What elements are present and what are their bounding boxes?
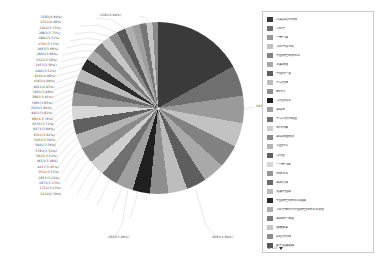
callout-left-31: 1871(3.17%) [39, 182, 60, 185]
legend-swatch-icon [267, 171, 273, 176]
legend-item[interactable]: 合作共赢 [267, 124, 370, 133]
legend-swatch-icon [267, 153, 273, 158]
callout-left-13: 4022(4.03%) [33, 86, 54, 89]
callout-left-27: 4611(3.48%) [37, 160, 58, 163]
callout-left-25: 5782(3.54%) [35, 150, 56, 153]
callout-left-12: 4161(4.09%) [34, 80, 55, 83]
callout-left-18: 6921(3.82%) [31, 112, 52, 115]
callout-left-8: 2522(3.58%) [36, 59, 57, 62]
callout-left-16: 7081(3.85%) [31, 102, 52, 105]
legend-item[interactable]: "一带一路" [267, 160, 370, 169]
legend-item-label: 习近平总书记 [276, 45, 294, 48]
legend-panel[interactable]: 人类命运共同体习近平一带一路习近平总书记中国特色社会主义主要治理中国共产党中华民… [262, 11, 374, 253]
callout-left-6: 2663(3.68%) [37, 48, 58, 51]
legend-item[interactable]: 全面从严治党 [267, 214, 370, 223]
callout-left-29: 3512(3.31%) [38, 171, 59, 174]
legend-item[interactable]: 普遍安全 [267, 223, 370, 232]
legend-item-label: 中国特色社会主义 [276, 54, 300, 57]
legend-item-label: 习近平 [276, 27, 285, 30]
legend-item[interactable]: 习近平总书记 [267, 42, 370, 51]
legend-swatch-icon [267, 189, 273, 194]
legend-swatch-icon [267, 44, 273, 49]
callout-left-4: 2802(3.71%) [38, 37, 59, 40]
callout-left-33: 2214(2.79%) [40, 193, 61, 196]
callout-left-1: 1552(4.48%) [40, 21, 61, 24]
legend-swatch-icon [267, 107, 273, 112]
legend-item[interactable]: 中华民族 [267, 78, 370, 87]
callout-left-17: 7021(3.84%) [31, 107, 52, 110]
legend-swatch-icon [267, 71, 273, 76]
legend-item-label: 中华人民共和国 [276, 117, 297, 120]
legend-item-label: 大国外交 [276, 144, 288, 147]
legend-item[interactable]: 人类命运共同体 [267, 15, 370, 24]
legend-item[interactable]: 全球治理体系 [267, 133, 370, 142]
legend-item[interactable]: 习近平 [267, 24, 370, 33]
callout-left-15: 3801(3.91%) [32, 96, 53, 99]
legend-item[interactable]: 全球化 [267, 105, 370, 114]
callout-left-30: 2811(3.24%) [38, 177, 59, 180]
legend-item-label: 普遍安全 [276, 226, 288, 229]
legend-list[interactable]: 人类命运共同体习近平一带一路习近平总书记中国特色社会主义主要治理中国共产党中华民… [267, 15, 370, 250]
legend-item-label: 合作共赢 [276, 126, 288, 129]
legend-item[interactable]: 发展中国家 [267, 187, 370, 196]
callout-left-28: 4417(3.45%) [37, 166, 58, 169]
legend-prev-icon[interactable]: ◄ [267, 246, 270, 250]
pie-center [157, 107, 160, 110]
legend-swatch-icon [267, 117, 273, 122]
legend-item[interactable]: 中国特色社会主义道路 [267, 196, 370, 205]
callout-top: 2582(4.69%) [100, 14, 121, 17]
legend-item[interactable]: 马克思主义 [267, 96, 370, 105]
legend-item-label: 中华民族 [276, 81, 288, 84]
legend-item[interactable]: 社会主义 [267, 169, 370, 178]
legend-item[interactable]: 主要治理 [267, 60, 370, 69]
legend-item[interactable]: 新时代 [267, 87, 370, 96]
legend-pagination[interactable]: ◄ 1/2 [267, 246, 283, 250]
pie-chart[interactable] [72, 22, 244, 194]
callout-left-14: 3951(3.98%) [33, 91, 54, 94]
legend-swatch-icon [267, 216, 273, 221]
legend-item[interactable]: 一带一路 [267, 33, 370, 42]
legend-swatch-icon [267, 135, 273, 140]
legend-item[interactable]: 中华人民共和国 [267, 115, 370, 124]
legend-swatch-icon [267, 180, 273, 185]
legend-swatch-icon [267, 225, 273, 230]
legend-item-label: 全面小康 [276, 181, 288, 184]
legend-item-label: 全面从严治党 [276, 217, 294, 220]
legend-swatch-icon [267, 80, 273, 85]
legend-swatch-icon [267, 17, 273, 22]
legend-swatch-icon [267, 53, 273, 58]
legend-swatch-icon [267, 144, 273, 149]
legend-item-label: 中国特色社会主义道路 [276, 199, 306, 202]
callout-left-32: 1712(3.13%) [40, 187, 61, 190]
legend-swatch-icon [267, 234, 273, 239]
legend-swatch-icon [267, 35, 273, 40]
legend-item-label: 全球化 [276, 108, 285, 111]
callout-bottom-left: 2893(3.06%) [108, 236, 129, 239]
legend-item-label: 习近平新时代中国特色社会主义思想 [276, 208, 324, 211]
callout-left-9: 2451(3.56%) [35, 64, 56, 67]
legend-swatch-icon [267, 98, 273, 103]
legend-item[interactable]: 马克思 [267, 151, 370, 160]
legend-item-label: 中国共产党 [276, 72, 291, 75]
legend-item-label: 一带一路 [276, 36, 288, 39]
callout-bottom-right: 4081(4.89%) [212, 236, 233, 239]
legend-item[interactable]: 全面小康 [267, 178, 370, 187]
legend-item-label: 马克思主义 [276, 99, 291, 102]
legend-swatch-icon [267, 162, 273, 167]
legend-item[interactable]: 中国特色社会主义 [267, 51, 370, 60]
callout-left-5: 2741(3.71%) [38, 43, 59, 46]
legend-swatch-icon [267, 89, 273, 94]
callout-left-0: 2581(4.69%) [41, 16, 62, 19]
legend-item-label: "一带一路" [276, 163, 291, 166]
callout-left-10: 2402(3.52%) [35, 70, 56, 73]
legend-item[interactable]: 中国共产党 [267, 69, 370, 78]
legend-item[interactable]: 大国外交 [267, 142, 370, 151]
legend-next-icon[interactable] [279, 247, 283, 250]
legend-item[interactable]: 习近平新时代中国特色社会主义思想 [267, 205, 370, 214]
legend-item[interactable]: 命运共同体 [267, 232, 370, 241]
legend-item-label: 全球治理体系 [276, 135, 294, 138]
legend-swatch-icon [267, 26, 273, 31]
callout-left-26: 5621(3.52%) [36, 155, 57, 158]
legend-page-indicator: 1/2 [272, 246, 278, 250]
legend-item-label: 命运共同体 [276, 235, 291, 238]
